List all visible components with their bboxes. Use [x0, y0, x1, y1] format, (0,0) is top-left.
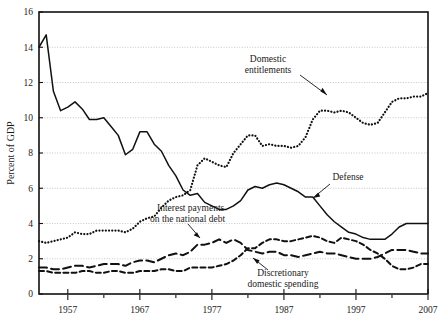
annotation-discretionary-line2: domestic spending [248, 279, 319, 289]
chart-canvas: 0246810121416 195719671977198719972007 P… [0, 0, 445, 324]
x-tick-label-1987: 1987 [274, 305, 293, 315]
series-defense [39, 35, 428, 239]
y-tick-label-10: 10 [24, 113, 34, 123]
y-tick-label-0: 0 [28, 289, 33, 299]
x-tick-label-1977: 1977 [202, 305, 221, 315]
gridlines [39, 47, 428, 259]
y-axis: 0246810121416 [24, 7, 44, 299]
arrowhead-interest [194, 232, 200, 238]
y-tick-label-6: 6 [28, 184, 33, 194]
annotation-discretionary-line1: Discretionary [257, 268, 309, 278]
x-tick-label-1997: 1997 [346, 305, 365, 315]
y-tick-label-2: 2 [28, 254, 33, 264]
chart-page: 0246810121416 195719671977198719972007 P… [0, 0, 445, 324]
y-tick-label-4: 4 [28, 219, 33, 229]
arrowhead-domestic-entitlements [321, 88, 328, 95]
annotation-defense: Defense [332, 172, 363, 182]
annotation-interest-line1: Interest payments [157, 203, 225, 213]
y-axis-title: Percent of GDP [5, 121, 16, 185]
x-tick-label-1957: 1957 [58, 305, 77, 315]
annotation-interest-line2: on the national debt [150, 214, 226, 224]
series-interest-payments-on-the-national-debt [39, 236, 428, 273]
series-domestic-entitlements [39, 93, 428, 243]
data-series [39, 35, 428, 273]
arrowhead-discretionary [253, 258, 260, 264]
annotation-domestic-entitlements-line1: Domestic [250, 54, 286, 64]
series-discretionary-domestic-spending [39, 239, 428, 269]
y-tick-label-12: 12 [24, 78, 34, 88]
annotation-domestic-entitlements-line2: entitlements [245, 65, 292, 75]
x-axis: 195719671977198719972007 [58, 289, 437, 315]
y-tick-label-14: 14 [24, 43, 34, 53]
y-tick-label-8: 8 [28, 148, 33, 158]
y-tick-label-16: 16 [24, 7, 34, 17]
x-tick-label-2007: 2007 [419, 305, 438, 315]
x-tick-label-1967: 1967 [130, 305, 149, 315]
